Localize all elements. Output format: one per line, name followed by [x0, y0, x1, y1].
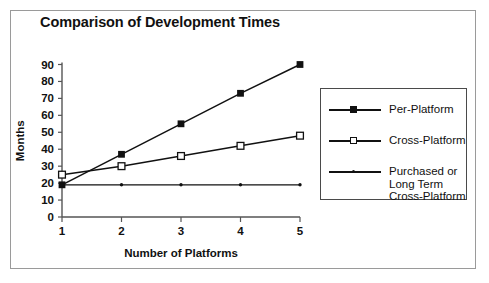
x-tick-label: 2	[118, 225, 124, 237]
data-point-marker	[237, 142, 244, 149]
data-series-group	[59, 61, 304, 188]
filled-square-marker-icon	[329, 103, 381, 117]
legend-label-purchased: Purchased or Long Term Cross-Platform	[389, 165, 466, 203]
y-tick-label: 0	[48, 211, 54, 223]
data-point-marker	[60, 183, 63, 186]
legend-item-purchased: Purchased or Long Term Cross-Platform	[321, 165, 468, 203]
y-tick-label: 80	[41, 75, 54, 87]
legend-item-cross-platform: Cross-Platform	[321, 134, 468, 148]
data-point-marker	[237, 90, 244, 97]
data-point-marker	[239, 183, 242, 186]
y-tick-label: 60	[41, 109, 54, 121]
axis-titles: Number of PlatformsMonths	[14, 120, 238, 259]
data-point-marker	[118, 151, 125, 158]
data-point-marker	[297, 61, 304, 68]
open-square-marker-icon	[329, 134, 381, 148]
x-tick-label: 5	[297, 225, 304, 237]
y-tick-label: 30	[41, 160, 54, 172]
x-axis-title: Number of Platforms	[124, 247, 238, 259]
chart-legend: Per-Platform Cross-Platform Purchased or…	[320, 88, 467, 200]
small-dot-marker-icon	[329, 165, 381, 179]
x-tick-label: 4	[237, 225, 244, 237]
data-point-marker	[59, 171, 66, 178]
x-tick-label: 3	[178, 225, 184, 237]
y-tick-label: 50	[41, 126, 54, 138]
y-axis-title: Months	[14, 120, 26, 161]
legend-label-cross-platform: Cross-Platform	[389, 134, 466, 147]
legend-item-per-platform: Per-Platform	[321, 103, 468, 117]
data-point-marker	[178, 120, 185, 127]
y-axis: 9080706050403020100	[41, 59, 62, 224]
x-axis: 12345	[59, 217, 304, 237]
y-tick-label: 70	[41, 92, 54, 104]
data-point-marker	[297, 132, 304, 139]
y-tick-label: 40	[41, 143, 54, 155]
data-point-marker	[118, 163, 125, 170]
data-point-marker	[298, 183, 301, 186]
x-tick-label: 1	[59, 225, 66, 237]
data-point-marker	[178, 153, 185, 160]
y-tick-label: 10	[41, 194, 54, 206]
y-tick-label: 20	[41, 177, 54, 189]
y-tick-label: 90	[41, 59, 54, 71]
data-point-marker	[120, 183, 123, 186]
data-point-marker	[179, 183, 182, 186]
chart-figure: Comparison of Development Times 90807060…	[0, 0, 489, 283]
legend-label-per-platform: Per-Platform	[389, 103, 454, 116]
